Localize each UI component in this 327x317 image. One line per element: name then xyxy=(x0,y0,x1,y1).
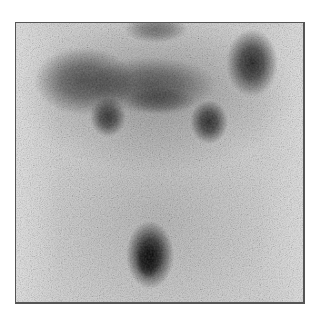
scintigraphy-image xyxy=(16,23,303,302)
scan-frame xyxy=(15,22,305,304)
noise-texture-light xyxy=(16,23,303,302)
